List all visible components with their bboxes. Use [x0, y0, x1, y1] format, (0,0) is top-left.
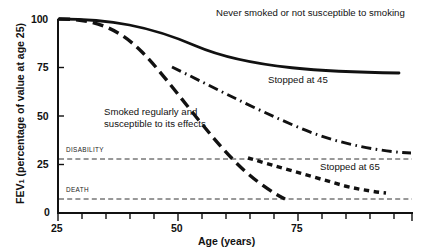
stopped-at-45-annotation: Stopped at 45: [268, 74, 328, 85]
y-axis-title-subscript: 1: [17, 179, 26, 183]
chart-plot-area: [0, 0, 432, 251]
death-reference-label: DEATH: [66, 186, 89, 193]
fletcher-peto-chart: 100 75 50 25 0 25 50 75 Age (years) FEV1…: [0, 0, 432, 251]
y-tick-label-0: 0: [44, 206, 50, 218]
x-tick-label-75: 75: [291, 222, 302, 234]
smoked-regularly-annotation-line2: susceptible to its effects: [104, 118, 206, 130]
never-smoked-annotation: Never smoked or not susceptible to smoki…: [216, 7, 405, 18]
x-axis-ticks: [58, 213, 412, 221]
x-axis-title: Age (years): [198, 235, 255, 247]
smoked-regularly-annotation-line1: Smoked regularly and: [104, 106, 206, 118]
y-axis-title: FEV1 (percentage of value at age 25): [14, 23, 27, 204]
y-axis-title-main: FEV: [14, 184, 26, 204]
y-tick-label-25: 25: [37, 158, 48, 170]
y-axis-title-rest: (percentage of value at age 25): [14, 23, 26, 179]
x-tick-label-50: 50: [171, 222, 182, 234]
smoked-regularly-annotation: Smoked regularly and susceptible to its …: [104, 106, 206, 129]
stopped-at-65-annotation: Stopped at 65: [320, 161, 380, 172]
x-tick-label-25: 25: [51, 222, 62, 234]
y-tick-label-75: 75: [37, 61, 48, 73]
y-tick-label-100: 100: [31, 13, 48, 25]
y-tick-label-50: 50: [37, 110, 48, 122]
disability-reference-label: DISABILITY: [66, 146, 104, 153]
